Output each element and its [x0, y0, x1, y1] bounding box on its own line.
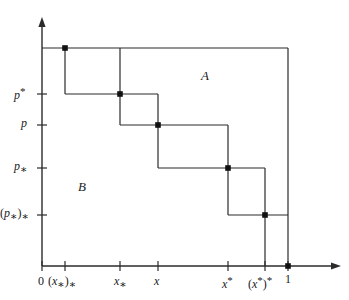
region-label-B: B	[78, 179, 86, 195]
y-tick-label-psub: p∗	[14, 159, 27, 176]
y-label-substar-glyph: ∗	[20, 163, 27, 175]
x-label-inner-substar: ∗	[57, 278, 64, 290]
y-label-p-glyph-2: p	[21, 116, 27, 130]
bounding-box	[42, 48, 288, 266]
y-tick-label-psubsub: (p∗)∗	[0, 206, 29, 223]
region-label-A: A	[201, 68, 209, 84]
x-tick-label-xstarstar: (x*)*	[248, 274, 272, 292]
staircase-horizontals	[65, 94, 288, 215]
x-label-substar-glyph: ∗	[119, 278, 126, 290]
x-label-outer-substar: ∗	[69, 278, 76, 290]
x-tick-label-xsub: x∗	[114, 274, 127, 291]
x-label-one-glyph: 1	[285, 272, 291, 286]
x-tick-label-xsubsub: (x∗)∗	[48, 274, 76, 291]
point-marker-1	[62, 45, 68, 51]
point-marker-4	[225, 165, 231, 171]
x-label-outer-star: *	[267, 274, 273, 286]
x-tick-label-1: 1	[285, 272, 291, 287]
y-tick-label-p: p	[21, 116, 27, 131]
staircase-plot	[0, 0, 349, 300]
point-marker-5	[262, 212, 268, 218]
point-marker-3	[155, 122, 161, 128]
y-tick-label-pstar: p*	[14, 85, 26, 103]
x-label-x-glyph-3: x	[154, 274, 159, 288]
figure-canvas: A B p* p p∗ (p∗)∗ 0 (x∗)∗ x∗ x x* (x*)* …	[0, 0, 349, 300]
x-label-zero-glyph: 0	[38, 274, 44, 288]
y-label-star-glyph: *	[20, 85, 26, 97]
y-axis-arrowhead	[38, 17, 45, 27]
y-label-outer-substar: ∗	[21, 210, 28, 222]
staircase-verticals	[65, 48, 265, 266]
x-label-star-glyph: *	[227, 274, 233, 286]
point-marker-2	[117, 91, 123, 97]
marked-points	[62, 45, 291, 269]
point-marker-6	[285, 263, 291, 269]
x-tick-label-x: x	[154, 274, 159, 289]
x-tick-label-xstar: x*	[222, 274, 233, 292]
x-axis-arrowhead	[331, 262, 341, 269]
x-tick-label-0: 0	[38, 274, 44, 289]
axis-lines	[38, 17, 341, 270]
